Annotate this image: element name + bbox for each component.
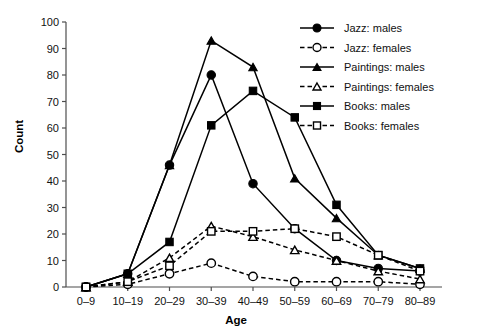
series-paintings-males — [82, 37, 424, 291]
data-point-marker — [333, 233, 340, 240]
chart-container: 0102030405060708090100 0–910–1920–2930–3… — [0, 0, 481, 336]
y-axis-title: Count — [13, 120, 25, 153]
y-tick-label: 60 — [47, 122, 59, 134]
chart-legend: Jazz: malesJazz: femalesPaintings: males… — [300, 22, 434, 132]
data-point-marker — [291, 114, 298, 121]
x-axis: 0–910–1920–2930–3940–4950–5960–6970–7980… — [66, 287, 442, 307]
data-point-marker — [82, 283, 89, 290]
legend-label: Paintings: females — [344, 81, 434, 93]
y-tick-label: 50 — [47, 149, 59, 161]
data-point-marker — [208, 122, 215, 129]
x-tick-label: 20–29 — [154, 295, 185, 307]
data-point-marker — [165, 270, 173, 278]
data-point-marker — [249, 228, 256, 235]
legend-label: Jazz: females — [344, 42, 412, 54]
legend-item[interactable]: Paintings: females — [300, 81, 434, 93]
data-point-marker — [291, 225, 298, 232]
series-jazz-females — [82, 259, 424, 291]
y-tick-label: 40 — [47, 175, 59, 187]
legend-item[interactable]: Books: males — [300, 100, 411, 112]
y-tick-label: 100 — [41, 16, 59, 28]
series-layer — [82, 37, 424, 291]
data-point-marker — [207, 37, 215, 44]
data-point-marker — [208, 228, 215, 235]
legend-item[interactable]: Jazz: females — [300, 42, 412, 54]
x-tick-label: 0–9 — [77, 295, 95, 307]
data-point-marker — [166, 262, 173, 269]
y-tick-label: 20 — [47, 228, 59, 240]
data-point-marker — [374, 278, 382, 286]
x-tick-label: 50–59 — [279, 295, 310, 307]
data-point-marker — [207, 71, 215, 79]
data-point-marker — [313, 44, 321, 52]
data-point-marker — [249, 272, 257, 280]
y-tick-label: 70 — [47, 96, 59, 108]
data-point-marker — [416, 267, 423, 274]
legend-label: Books: males — [344, 100, 411, 112]
data-point-marker — [313, 24, 321, 32]
legend-item[interactable]: Jazz: males — [300, 22, 403, 34]
legend-label: Jazz: males — [344, 22, 403, 34]
data-point-marker — [249, 87, 256, 94]
data-point-marker — [207, 259, 215, 267]
y-tick-label: 10 — [47, 255, 59, 267]
data-point-marker — [291, 175, 299, 182]
data-point-marker — [332, 278, 340, 286]
legend-label: Books: females — [344, 120, 420, 132]
x-axis-title: Age — [225, 314, 247, 326]
legend-item[interactable]: Books: females — [300, 120, 420, 132]
data-point-marker — [124, 270, 131, 277]
data-point-marker — [313, 122, 320, 129]
legend-item[interactable]: Paintings: males — [300, 61, 425, 73]
x-tick-label: 40–49 — [238, 295, 269, 307]
x-tick-label: 30–39 — [196, 295, 227, 307]
y-axis: 0102030405060708090100 — [41, 16, 66, 293]
y-tick-label: 80 — [47, 69, 59, 81]
x-tick-label: 60–69 — [321, 295, 352, 307]
x-tick-label: 70–79 — [363, 295, 394, 307]
x-tick-label: 80–89 — [405, 295, 436, 307]
x-tick-label: 10–19 — [112, 295, 143, 307]
y-tick-label: 0 — [53, 281, 59, 293]
data-point-marker — [291, 246, 299, 253]
data-point-marker — [249, 179, 257, 187]
data-point-marker — [166, 238, 173, 245]
y-tick-label: 90 — [47, 43, 59, 55]
data-point-marker — [313, 83, 321, 90]
data-point-marker — [291, 278, 299, 286]
data-point-marker — [124, 278, 131, 285]
count-by-age-line-chart: 0102030405060708090100 0–910–1920–2930–3… — [0, 0, 481, 336]
y-tick-label: 30 — [47, 202, 59, 214]
legend-label: Paintings: males — [344, 61, 425, 73]
data-point-marker — [333, 201, 340, 208]
data-point-marker — [313, 102, 320, 109]
data-point-marker — [375, 252, 382, 259]
